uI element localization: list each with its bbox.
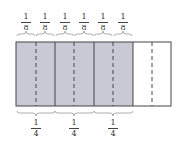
fraction-label-eighth: 1 8 (77, 13, 91, 32)
denominator: 8 (19, 24, 33, 32)
fraction-label-quarter: 1 4 (106, 119, 120, 138)
numerator: 1 (116, 13, 130, 21)
denominator: 8 (96, 24, 110, 32)
denominator: 4 (106, 130, 120, 138)
top-braces (17, 31, 132, 36)
numerator: 1 (96, 13, 110, 21)
numerator: 1 (19, 13, 33, 21)
numerator: 1 (29, 119, 43, 127)
fraction-label-eighth: 1 8 (58, 13, 72, 32)
denominator: 4 (29, 130, 43, 138)
numerator: 1 (38, 13, 52, 21)
numerator: 1 (106, 119, 120, 127)
denominator: 8 (77, 24, 91, 32)
bottom-braces (17, 111, 133, 116)
fraction-label-eighth: 1 8 (116, 13, 130, 32)
fraction-label-eighth: 1 8 (96, 13, 110, 32)
fraction-label-eighth: 1 8 (38, 13, 52, 32)
numerator: 1 (77, 13, 91, 21)
fraction-label-quarter: 1 4 (67, 119, 81, 138)
denominator: 8 (38, 24, 52, 32)
numerator: 1 (58, 13, 72, 21)
denominator: 8 (116, 24, 130, 32)
numerator: 1 (67, 119, 81, 127)
fraction-label-quarter: 1 4 (29, 119, 43, 138)
denominator: 8 (58, 24, 72, 32)
denominator: 4 (67, 130, 81, 138)
fraction-label-eighth: 1 8 (19, 13, 33, 32)
